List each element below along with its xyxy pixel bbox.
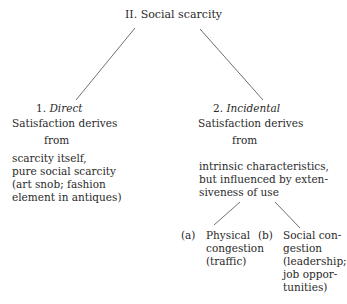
connector-root-right [200,29,263,100]
sub-a-line-3: (traffic) [206,255,246,268]
connector-root-left [76,28,135,100]
sub-b-line-5: tunities) [283,281,327,294]
sub-a-line-1: Physical [206,229,250,242]
sub-b-line-2: gestion [283,242,322,255]
right-body-line-1: intrinsic characteristics, [199,160,329,173]
right-node-number: 2. [213,102,223,114]
right-from-line: from [232,134,257,147]
sub-a-line-2: congestion [206,242,264,255]
left-satisfaction-line: Satisfaction derives [12,117,117,130]
connector-right-a [214,202,240,225]
left-node-title: 1. Direct [36,102,83,115]
connector-right-b [275,202,300,228]
left-body-line-1: scarcity itself, [12,152,87,165]
right-node-title: 2. Incidental [213,102,280,115]
left-body-line-4: element in antiques) [12,191,122,204]
right-node-title-text: Incidental [226,102,280,114]
root-node-label: II. Social scarcity [125,8,222,21]
sub-b-line-3: (leadership; [283,255,347,268]
sub-b-marker: (b) [258,229,273,242]
left-body-line-3: (art snob; fashion [12,178,106,191]
right-satisfaction-line: Satisfaction derives [198,117,303,130]
sub-a-marker: (a) [181,229,195,242]
right-body-line-2: but influenced by exten- [199,173,328,186]
sub-b-line-1: Social con- [283,229,341,242]
left-body-line-2: pure social scarcity [12,165,116,178]
left-from-line: from [44,134,69,147]
right-body-line-3: siveness of use [199,186,279,199]
left-node-title-text: Direct [49,102,82,114]
left-node-number: 1. [36,102,46,114]
sub-b-line-4: job oppor- [283,268,337,281]
